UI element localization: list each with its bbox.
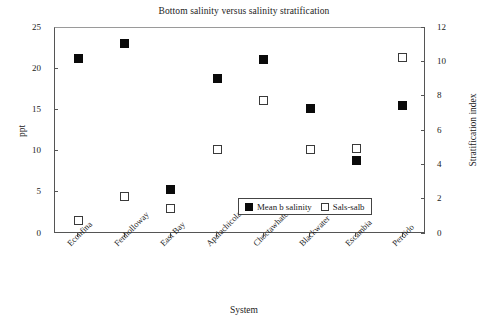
x-axis-labels: EconfinaFenhollowayEast BayApalachicolaC… [0,233,488,303]
x-axis-title: System [0,305,488,315]
legend-entry: Sals-salb [321,202,365,212]
y2-tick-mark [421,27,425,28]
data-point [352,156,361,165]
data-point [306,104,315,113]
y-axis-left-title: ppt [17,101,27,161]
y2-tick-mark [421,198,425,199]
y2-tick-label: 2 [437,194,463,203]
y-tick-label: 25 [1,23,41,32]
data-point [213,145,222,154]
y-tick-mark [54,191,58,192]
legend-swatch-open-square-icon [321,203,329,211]
y2-tick-label: 12 [437,23,463,32]
legend-label: Mean b salinity [257,202,312,212]
y-axis-right-labels: 024681012 [427,27,457,233]
y2-tick-mark [421,130,425,131]
y-tick-mark [54,150,58,151]
y-axis-right-title: Stratification index [468,70,478,190]
legend-swatch-filled-square-icon [245,203,253,211]
data-point [259,96,268,105]
y-tick-mark [54,109,58,110]
data-point [306,145,315,154]
y-tick-label: 20 [1,64,41,73]
data-point [120,39,129,48]
data-point [213,74,222,83]
y-tick-mark [54,68,58,69]
chart-figure: Bottom salinity versus salinity stratifi… [0,0,488,323]
legend-label: Sals-salb [333,202,365,212]
data-point [74,54,83,63]
y2-tick-mark [421,95,425,96]
y2-tick-mark [421,61,425,62]
data-point [120,192,129,201]
data-point [166,204,175,213]
y2-tick-label: 8 [437,91,463,100]
data-point [398,101,407,110]
data-point [398,53,407,62]
chart-title: Bottom salinity versus salinity stratifi… [0,6,488,16]
y2-tick-label: 4 [437,160,463,169]
legend-entry: Mean b salinity [245,202,312,212]
chart-legend: Mean b salinitySals-salb [238,198,372,215]
data-point [259,55,268,64]
y-tick-label: 5 [1,187,41,196]
data-point [166,185,175,194]
y2-tick-label: 6 [437,126,463,135]
y2-tick-label: 10 [437,57,463,66]
y2-tick-mark [421,164,425,165]
data-point [352,144,361,153]
